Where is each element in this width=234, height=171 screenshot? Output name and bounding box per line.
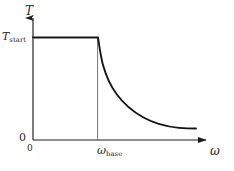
- x-tick-label-wbase: ωbase: [97, 145, 122, 157]
- figure-container: T ω Tstart 0 0 ωbase: [0, 0, 234, 171]
- torque-curve: [33, 37, 196, 128]
- y-tick-label-tstart: Tstart: [2, 31, 26, 43]
- wbase-main: ω: [97, 144, 106, 157]
- y-tick-label-zero: 0: [19, 132, 26, 143]
- y-axis-label: T: [25, 5, 33, 17]
- x-axis-label: ω: [210, 145, 220, 157]
- origin-label-zero: 0: [27, 144, 33, 153]
- wbase-subscript: base: [106, 150, 122, 158]
- tstart-subscript: start: [9, 36, 26, 44]
